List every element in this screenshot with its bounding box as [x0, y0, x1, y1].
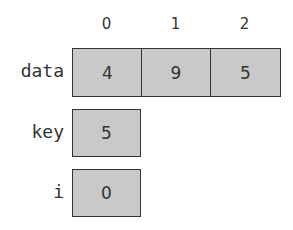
data-cell-2: 5	[210, 49, 280, 96]
key-label: key	[4, 121, 64, 142]
data-cell-0: 4	[73, 49, 142, 96]
i-label: i	[4, 181, 64, 202]
data-array: 4 9 5	[72, 48, 281, 97]
index-label-1: 1	[141, 15, 210, 33]
data-cell-1: 9	[141, 49, 210, 96]
i-value: 0	[73, 170, 140, 216]
key-box: 5	[72, 109, 141, 157]
index-label-2: 2	[210, 15, 279, 33]
i-box: 0	[72, 169, 141, 217]
index-label-0: 0	[72, 15, 141, 33]
key-value: 5	[73, 110, 140, 156]
data-label: data	[4, 60, 64, 81]
